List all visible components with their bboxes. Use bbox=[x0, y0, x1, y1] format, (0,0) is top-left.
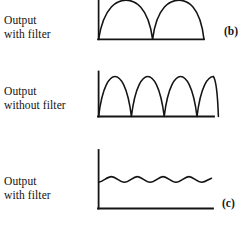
figure-root: Output with filter (b) Output without fi… bbox=[0, 0, 252, 234]
part-tag-c: (c) bbox=[222, 197, 235, 209]
panel-label-line1: Output bbox=[4, 175, 51, 189]
ripple-waveform bbox=[99, 177, 212, 183]
waveform-panel-filtered-top: Output with filter (b) bbox=[0, 0, 252, 62]
panel-label-line2: with filter bbox=[4, 189, 51, 203]
panel-label-line2: with filter bbox=[4, 28, 51, 42]
waveform-plot-four-humps bbox=[94, 66, 219, 118]
waveform-plot-ripple bbox=[94, 150, 219, 232]
rectified-waveform-tail bbox=[213, 77, 218, 117]
waveform-panel-unfiltered: Output without filter bbox=[0, 62, 252, 134]
panel-label-filtered-bottom: Output with filter bbox=[4, 175, 51, 202]
waveform-plot-two-humps bbox=[94, 0, 209, 44]
panel-label-line2: without filter bbox=[4, 99, 66, 113]
panel-label-unfiltered: Output without filter bbox=[4, 85, 66, 112]
part-tag-b: (b) bbox=[224, 25, 238, 37]
waveform-panel-filtered-bottom: Output with filter (c) bbox=[0, 134, 252, 234]
panel-label-filtered-top: Output with filter bbox=[4, 14, 51, 41]
panel-label-line1: Output bbox=[4, 14, 51, 28]
rectified-waveform-four-humps bbox=[99, 77, 214, 117]
panel-label-line1: Output bbox=[4, 85, 66, 99]
rectified-waveform-two-humps bbox=[99, 0, 204, 39]
